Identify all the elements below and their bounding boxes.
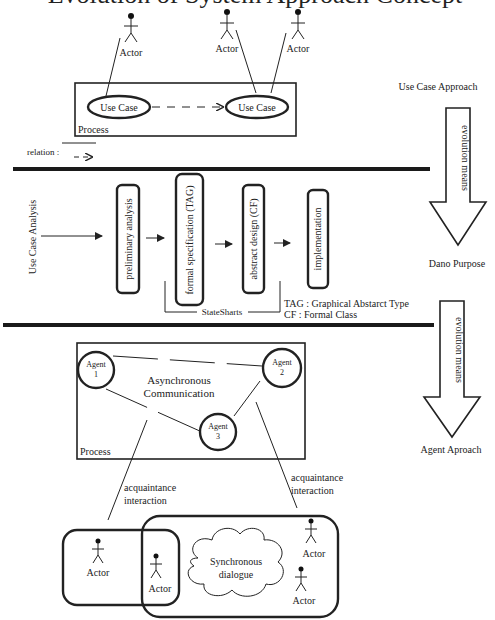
use-case-section: Actor Actor Actor Process Use Ca	[27, 9, 477, 157]
process-label: Process	[78, 124, 109, 135]
actor-figure: Actor	[149, 554, 172, 595]
actor-figure: Actor	[216, 9, 239, 54]
stage-label: formal specification (TAG)	[184, 185, 196, 294]
async-link	[234, 381, 260, 416]
agent-number: 1	[94, 370, 98, 379]
agent-approach-label: Agent Aproach	[421, 444, 482, 455]
evolution-arrow: evolution means	[430, 108, 486, 245]
diagram-canvas: Evolution of System Approach Concept Act…	[0, 0, 495, 620]
evolution-means-label: evolution means	[454, 317, 465, 383]
stage-label: abstract design (CF)	[248, 198, 260, 279]
agent-number: 2	[280, 368, 284, 377]
async-label-line1: Asynchronous	[147, 374, 211, 386]
actor-figure: Actor	[293, 567, 316, 607]
agent-section: Process Agent 1 Agent 2 Agent 3 Asynchro…	[63, 343, 481, 617]
actor-label: Actor	[120, 47, 143, 58]
actor-label: Actor	[149, 583, 172, 594]
actor-figure: Actor	[303, 519, 326, 560]
evolution-arrow: evolution means	[424, 301, 480, 437]
actor-label: Actor	[287, 43, 310, 54]
agent-number: 3	[216, 432, 220, 441]
acquaintance-left-line2: interaction	[124, 495, 167, 506]
actor-label: Actor	[293, 595, 316, 606]
use-case-label: Use Case	[100, 102, 138, 113]
cloud-label-line1: Synchronous	[210, 556, 262, 567]
stage-label: preliminary analysis	[123, 198, 134, 279]
async-label-line2: Communication	[144, 387, 215, 399]
process-label: Process	[80, 446, 111, 457]
actor-figure: Actor	[87, 539, 110, 579]
actor-figure: Actor	[287, 9, 310, 54]
acquaintance-right-line2: interaction	[291, 485, 334, 496]
legend-tag: TAG : Graphical Abstarct Type	[284, 298, 410, 309]
association-line	[271, 33, 286, 93]
page-title: Evolution of System Approach Concept	[48, 0, 463, 9]
statesharts-label: StateSharts	[202, 307, 243, 317]
cloud-label-line2: dialogue	[219, 569, 254, 580]
use-case-analysis-label: Use Case Analysis	[27, 200, 38, 275]
legend-cf: CF : Formal Class	[284, 309, 357, 320]
acquaintance-right-line1: acquaintance	[291, 472, 344, 483]
evolution-means-label: evolution means	[460, 125, 471, 191]
association-line	[106, 38, 120, 96]
actor-figure: Actor	[120, 13, 143, 58]
stage-label: implementation	[312, 208, 323, 271]
acquaintance-left-line1: acquaintance	[124, 482, 177, 493]
use-case-label: Use Case	[238, 102, 276, 113]
agent-label: Agent	[86, 360, 106, 369]
dano-section: Use Case Analysis preliminary analysis f…	[27, 174, 486, 320]
agent-label: Agent	[272, 358, 292, 367]
agent-label: Agent	[208, 422, 228, 431]
actor-label: Actor	[216, 43, 239, 54]
actor-label: Actor	[87, 567, 110, 578]
use-case-approach-label: Use Case Approach	[399, 81, 478, 92]
dano-purpose-label: Dano Purpose	[429, 258, 486, 269]
async-link	[113, 356, 262, 366]
actor-label: Actor	[303, 548, 326, 559]
relation-legend-label: relation :	[27, 147, 59, 157]
